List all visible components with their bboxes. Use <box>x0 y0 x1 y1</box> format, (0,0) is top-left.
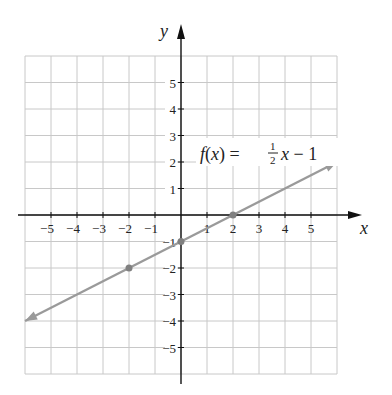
fraction-numerator: 1 <box>270 140 276 152</box>
x-tick-label: 3 <box>256 221 263 236</box>
y-tick-label: −2 <box>162 261 176 276</box>
x-tick-label: 2 <box>230 221 237 236</box>
y-tick-label: 5 <box>170 76 177 91</box>
function-label-rhs: x − 1 <box>280 144 317 164</box>
x-tick-label: −1 <box>144 221 158 236</box>
y-tick-label: −5 <box>162 341 176 356</box>
x-tick-label: −2 <box>118 221 132 236</box>
y-tick-label: 4 <box>170 102 177 117</box>
y-tick-label: −3 <box>162 288 176 303</box>
axes <box>18 24 362 384</box>
fraction-denominator: 2 <box>270 154 276 166</box>
function-label-lhs: f(x) = <box>200 144 240 165</box>
x-tick-label: −5 <box>40 221 54 236</box>
data-point <box>178 238 185 245</box>
y-tick-label: −4 <box>162 314 176 329</box>
x-axis-label: x <box>359 218 368 238</box>
data-point <box>126 265 133 272</box>
y-axis-label: y <box>158 21 168 41</box>
y-axis-arrow-icon <box>177 24 185 39</box>
y-tick-label: 2 <box>170 155 177 170</box>
line-arrow-left-icon <box>25 312 38 321</box>
function-label: f(x) = 1 2 x − 1 <box>196 138 338 166</box>
y-tick-label: 1 <box>170 182 177 197</box>
data-point <box>230 212 237 219</box>
function-graph: −5−4−3−2−11234554321−1−2−3−4−5 x y f(x) … <box>0 0 392 395</box>
x-tick-label: 4 <box>282 221 289 236</box>
x-tick-label: 5 <box>308 221 315 236</box>
y-tick-label: 3 <box>170 129 177 144</box>
x-tick-label: −4 <box>66 221 80 236</box>
x-tick-label: −3 <box>92 221 106 236</box>
